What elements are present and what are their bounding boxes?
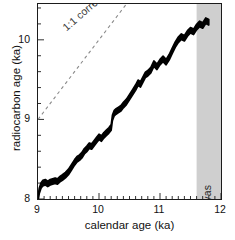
plot-area: Younger Dryas 1:1 correspondence (37, 3, 222, 200)
younger-dryas-label-wrap: Younger Dryas (181, 49, 221, 199)
x-axis-title: calendar age (ka) (37, 219, 222, 231)
radiocarbon-calibration-figure: Younger Dryas 1:1 correspondence 9101112… (0, 0, 235, 240)
younger-dryas-label: Younger Dryas (201, 185, 213, 200)
y-tick-label: 8 (6, 192, 30, 204)
x-tick-label: 9 (34, 203, 40, 215)
x-tick-label: 12 (214, 203, 226, 215)
x-tick-label: 10 (92, 203, 104, 215)
x-tick-label: 11 (154, 203, 165, 215)
y-axis-title: radiocarbon age (ka) (10, 33, 22, 163)
